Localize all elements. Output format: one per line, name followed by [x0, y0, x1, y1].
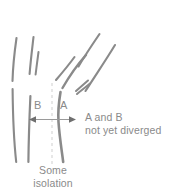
label-a: A	[60, 99, 68, 112]
note-line-2: not yet diverged	[85, 124, 161, 136]
lineage-left-sliver	[36, 52, 39, 75]
lineage-left-outer-upper	[13, 38, 17, 81]
lineage-left-inner-upper	[30, 37, 34, 74]
lineage-left-outer-lower	[13, 89, 17, 162]
lineage-left-inner-lower	[28, 96, 30, 162]
isolation-line-2: isolation	[18, 177, 88, 189]
isolation-line-1: Some	[18, 164, 88, 176]
lineage-right-outer	[79, 34, 100, 67]
measure-arrow-head-right	[69, 116, 76, 123]
label-b: B	[34, 99, 42, 112]
speciation-diagram: B A A and B not yet diverged Some isolat…	[0, 0, 177, 195]
measure-arrow	[29, 116, 76, 123]
note-line-1: A and B	[85, 111, 122, 123]
lineage-mid-diagonal	[56, 57, 75, 80]
